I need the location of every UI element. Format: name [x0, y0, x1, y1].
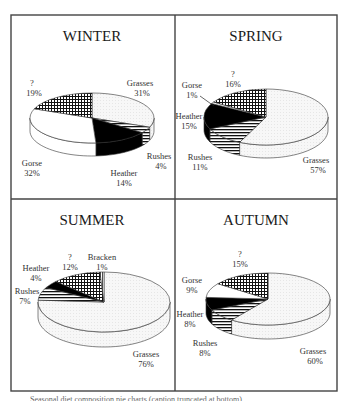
pie-summer: [38, 272, 170, 347]
label-summer-grasses: Grasses: [133, 349, 159, 359]
seasonal-pie-figure: WINTER Grasses 31% ? 19% Rushes 4% Gorse…: [0, 0, 351, 401]
label-summer-rushes-pct: 7%: [19, 296, 30, 306]
label-winter-heather-pct: 14%: [116, 178, 132, 188]
label-spring-rushes-pct: 11%: [192, 162, 207, 172]
panel-title-summer: SUMMER: [59, 212, 124, 228]
label-autumn-heather: Heather: [177, 309, 204, 319]
pie-autumn: [206, 273, 330, 339]
panel-title-autumn: AUTUMN: [223, 212, 289, 228]
label-autumn-grasses-pct: 60%: [307, 356, 323, 366]
label-winter-unknown: ?: [30, 78, 34, 88]
label-spring-grasses-pct: 57%: [310, 165, 326, 175]
label-spring-unknown: ?: [231, 69, 235, 79]
label-autumn-grasses: Grasses: [300, 346, 326, 356]
label-autumn-unknown: ?: [238, 249, 242, 259]
label-autumn-unknown-pct: 15%: [232, 259, 248, 269]
pie-winter: [30, 93, 154, 156]
panel-title-winter: WINTER: [63, 28, 121, 44]
panel-autumn: AUTUMN ? 15% Gorse 9% Heather 8% Rushes …: [177, 212, 330, 366]
pie-spring: [204, 89, 328, 158]
label-summer-unknown-pct: 12%: [62, 262, 78, 272]
label-summer-bracken-pct: 1%: [96, 262, 107, 272]
label-winter-grasses: Grasses: [127, 78, 153, 88]
label-summer-unknown: ?: [68, 252, 72, 262]
label-winter-rushes: Rushes: [147, 151, 172, 161]
label-spring-heather-pct: 15%: [181, 121, 197, 131]
figure-caption: Seasonal diet composition pie charts (ca…: [30, 395, 340, 401]
label-summer-rushes: Rushes: [15, 286, 40, 296]
label-spring-gorse: Gorse: [182, 80, 203, 90]
label-winter-grasses-pct: 31%: [134, 88, 150, 98]
label-winter-heather: Heather: [111, 168, 138, 178]
label-summer-bracken: Bracken: [88, 252, 117, 262]
label-autumn-gorse: Gorse: [182, 275, 203, 285]
panel-winter: WINTER Grasses 31% ? 19% Rushes 4% Gorse…: [22, 28, 171, 188]
label-autumn-rushes-pct: 8%: [199, 348, 210, 358]
label-spring-grasses: Grasses: [303, 155, 329, 165]
label-winter-gorse: Gorse: [22, 158, 43, 168]
panel-spring: SPRING ? 16% Gorse 1% Heather 15% Rushes…: [176, 28, 330, 175]
leader-line-spring-gorse: [200, 96, 214, 106]
label-spring-gorse-pct: 1%: [186, 90, 197, 100]
label-spring-unknown-pct: 16%: [225, 79, 241, 89]
label-spring-rushes: Rushes: [188, 152, 213, 162]
panel-summer: SUMMER ? 12% Bracken 1% Heather 4% Rushe…: [15, 212, 170, 369]
panel-title-spring: SPRING: [229, 28, 283, 44]
label-autumn-gorse-pct: 9%: [186, 285, 197, 295]
label-summer-heather: Heather: [23, 263, 50, 273]
label-spring-heather: Heather: [176, 111, 203, 121]
label-autumn-heather-pct: 8%: [184, 319, 195, 329]
label-summer-heather-pct: 4%: [30, 273, 41, 283]
label-winter-gorse-pct: 32%: [24, 168, 40, 178]
label-summer-grasses-pct: 76%: [138, 359, 154, 369]
label-winter-unknown-pct: 19%: [26, 88, 42, 98]
label-winter-rushes-pct: 4%: [155, 161, 166, 171]
label-autumn-rushes: Rushes: [193, 338, 218, 348]
